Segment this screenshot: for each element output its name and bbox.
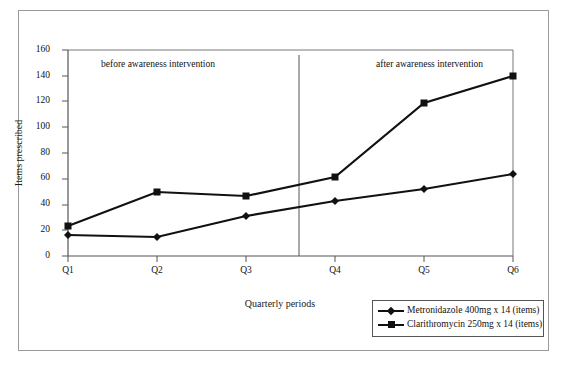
chart-legend: Metronidazole 400mg x 14 (items) Clarith… bbox=[372, 300, 544, 337]
legend-label-clarithromycin: Clarithromycin 250mg x 14 (items) bbox=[407, 320, 542, 330]
series-markers-metronidazole bbox=[64, 170, 517, 241]
legend-item-metronidazole: Metronidazole 400mg x 14 (items) bbox=[378, 304, 539, 318]
chart-figure: 160 140 120 100 80 60 40 20 0 Q1 Q2 Q3 Q… bbox=[0, 0, 567, 375]
legend-marker-square-icon bbox=[378, 319, 404, 331]
x-tick-marks bbox=[68, 256, 513, 262]
series-line-clarithromycin bbox=[68, 76, 513, 226]
legend-label-metronidazole: Metronidazole 400mg x 14 (items) bbox=[407, 306, 539, 316]
legend-marker-diamond-icon bbox=[378, 305, 404, 317]
legend-item-clarithromycin: Clarithromycin 250mg x 14 (items) bbox=[378, 318, 539, 332]
series-line-metronidazole bbox=[68, 174, 513, 237]
